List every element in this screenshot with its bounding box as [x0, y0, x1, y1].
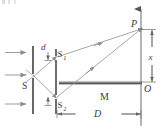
dimension-d: [45, 52, 52, 61]
ray-diagram-canvas: S d S 1 S 2 M P O x D: [0, 0, 164, 130]
label-slit-lower-group: S 2: [58, 100, 67, 112]
ray-S1-to-P: [57, 29, 141, 57]
rays-slits-to-screen-point: [57, 29, 141, 97]
label-slit-lower: S: [58, 100, 63, 110]
mirror-surface: [59, 81, 142, 84]
label-slit-upper: S: [58, 49, 63, 59]
label-slit-lower-subscript: 2: [64, 106, 67, 112]
ray-S-to-S2: [34, 76, 56, 97]
optics-figure: S d S 1 S 2 M P O x D: [0, 0, 164, 130]
mirror: [59, 81, 142, 84]
label-slit-upper-subscript: 1: [64, 55, 67, 61]
label-slit-separation: d: [41, 42, 46, 52]
ray-S2-to-P: [57, 29, 141, 97]
label-point-height: x: [148, 52, 153, 62]
rays-source-to-slits: [26, 58, 56, 98]
ray-S2-direction-arrow: [86, 68, 93, 74]
label-slit-upper-group: S 1: [58, 49, 67, 61]
label-mirror: M: [100, 91, 109, 102]
incident-wave-arrows: [5, 53, 26, 105]
label-screen-point: P: [130, 18, 137, 29]
dimension-s2-tick: [45, 97, 52, 106]
label-screen-distance: D: [93, 108, 102, 119]
label-source-slit: S: [22, 81, 27, 91]
label-screen-origin: O: [144, 83, 151, 94]
